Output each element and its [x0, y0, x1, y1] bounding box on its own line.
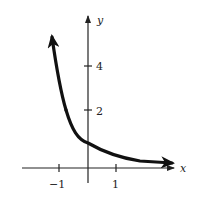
- x-axis-label: x: [180, 162, 187, 175]
- x-tick-label-neg1: −1: [49, 178, 65, 191]
- exponential-curve-left: [52, 37, 66, 110]
- y-tick-label-2: 2: [96, 105, 103, 118]
- exponential-curve: [66, 110, 172, 163]
- exponential-decay-plot: −1 1 2 4 x y: [0, 0, 202, 210]
- x-tick-label-1: 1: [112, 178, 119, 191]
- y-tick-label-4: 4: [96, 60, 103, 73]
- y-axis-label: y: [96, 14, 104, 27]
